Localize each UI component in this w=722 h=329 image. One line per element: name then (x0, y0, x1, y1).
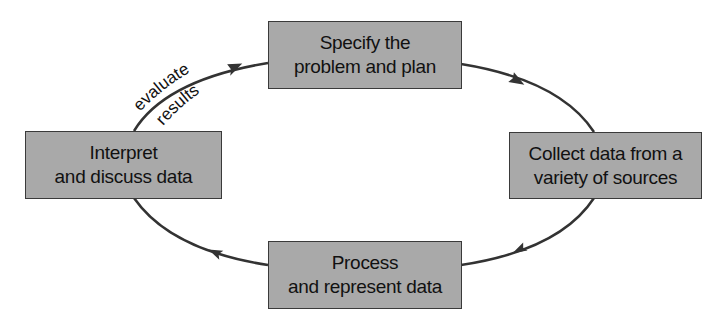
node-process-line1: Process (332, 251, 399, 275)
node-collect: Collect data from a variety of sources (509, 132, 702, 199)
node-interpret-line2: and discuss data (55, 165, 193, 189)
arrowhead-icon (206, 245, 223, 260)
node-collect-line1: Collect data from a (529, 142, 683, 166)
node-specify-line2: problem and plan (294, 55, 436, 79)
node-collect-line2: variety of sources (534, 166, 678, 190)
node-specify-line1: Specify the (320, 31, 411, 55)
node-process-line2: and represent data (288, 275, 442, 299)
arrow-collect-to-process (461, 198, 594, 265)
node-interpret: Interpret and discuss data (25, 131, 222, 199)
arrow-specify-to-collect (461, 64, 594, 132)
node-process: Process and represent data (268, 241, 462, 309)
cycle-diagram: evaluate results Specify the problem and… (0, 0, 722, 329)
node-interpret-line1: Interpret (89, 141, 157, 165)
arrow-process-to-interpret (134, 198, 268, 265)
node-specify: Specify the problem and plan (268, 21, 462, 89)
